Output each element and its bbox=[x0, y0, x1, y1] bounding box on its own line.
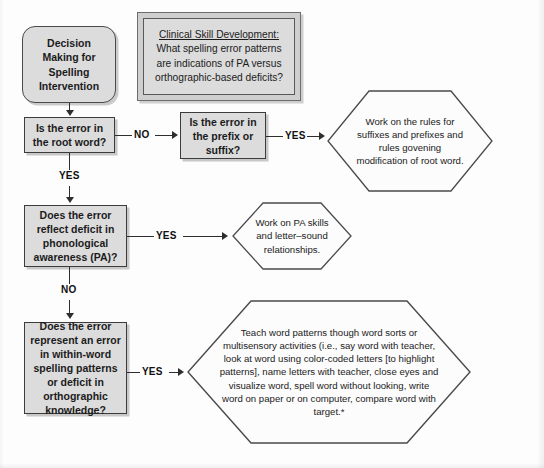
node-outcome-pa-skills[interactable]: Work on PA skills and letter–sound relat… bbox=[232, 202, 352, 270]
node-outcome-word-patterns[interactable]: Teach word patterns though word sorts or… bbox=[187, 300, 471, 444]
edge-affix-yes-line-a bbox=[266, 136, 283, 137]
edge-ortho-yes-line-a bbox=[127, 372, 140, 373]
edge-label-affix-yes: YES bbox=[283, 130, 308, 141]
edge-affix-yes-arrow bbox=[319, 132, 325, 140]
callout-heading: Clinical Skill Development: bbox=[159, 29, 279, 40]
node-decision-prefix-suffix[interactable]: Is the error in the prefix or suffix? bbox=[180, 112, 266, 159]
edge-pa-no-arrow bbox=[66, 313, 74, 319]
edge-affix-yes-line-b bbox=[307, 136, 319, 137]
node-outcome-affix-rules-label: Work on the rules for suffixes and prefi… bbox=[353, 96, 467, 186]
node-decision-root-word-label: Is the error in the root word? bbox=[29, 121, 110, 149]
node-decision-phonological-awareness-label: Does the error reflect deficit in phonol… bbox=[29, 208, 122, 264]
node-decision-orthographic-knowledge[interactable]: Does the error represent an error in wit… bbox=[24, 322, 127, 414]
edge-label-root-no: NO bbox=[132, 129, 151, 140]
node-outcome-affix-rules[interactable]: Work on the rules for suffixes and prefi… bbox=[327, 90, 493, 192]
node-decision-prefix-suffix-label: Is the error in the prefix or suffix? bbox=[185, 115, 261, 157]
edge-label-pa-yes: YES bbox=[154, 230, 179, 241]
edge-label-ortho-yes: YES bbox=[140, 366, 165, 377]
scan-edge-left bbox=[0, 0, 4, 468]
edge-root-no-line-b bbox=[155, 135, 172, 136]
scan-edge-right bbox=[537, 0, 544, 468]
edge-ortho-yes-line-b bbox=[169, 372, 178, 373]
edge-root-yes-arrow bbox=[66, 197, 74, 203]
flowchart-canvas: Decision Making for Spelling Interventio… bbox=[0, 0, 544, 468]
edge-label-pa-no: NO bbox=[59, 284, 78, 295]
edge-pa-yes-line-a bbox=[127, 236, 154, 237]
node-decision-root-word[interactable]: Is the error in the root word? bbox=[24, 117, 115, 153]
node-outcome-word-patterns-label: Teach word patterns though word sorts or… bbox=[219, 308, 439, 436]
edge-root-no-line-a bbox=[115, 135, 132, 136]
edge-pa-yes-arrow bbox=[222, 232, 228, 240]
callout-inner-frame: Clinical Skill Development: What spellin… bbox=[143, 18, 295, 95]
node-outcome-pa-skills-label: Work on PA skills and letter–sound relat… bbox=[248, 208, 336, 264]
edge-pa-no-line-b bbox=[69, 300, 70, 314]
node-clinical-skill-callout[interactable]: Clinical Skill Development: What spellin… bbox=[137, 12, 301, 101]
node-start-label: Decision Making for Spelling Interventio… bbox=[29, 36, 109, 94]
node-decision-orthographic-knowledge-label: Does the error represent an error in wit… bbox=[29, 319, 122, 417]
callout-body: What spelling error patterns are indicat… bbox=[155, 43, 283, 82]
node-start-decision-making[interactable]: Decision Making for Spelling Interventio… bbox=[22, 26, 116, 103]
edge-root-no-arrow bbox=[172, 131, 178, 139]
node-decision-phonological-awareness[interactable]: Does the error reflect deficit in phonol… bbox=[24, 205, 127, 267]
scan-edge-bottom bbox=[0, 463, 544, 468]
edge-ortho-yes-arrow bbox=[178, 368, 184, 376]
edge-start-to-root-arrow bbox=[66, 110, 74, 116]
edge-pa-yes-line-b bbox=[183, 236, 222, 237]
edge-label-root-yes: YES bbox=[57, 170, 82, 181]
